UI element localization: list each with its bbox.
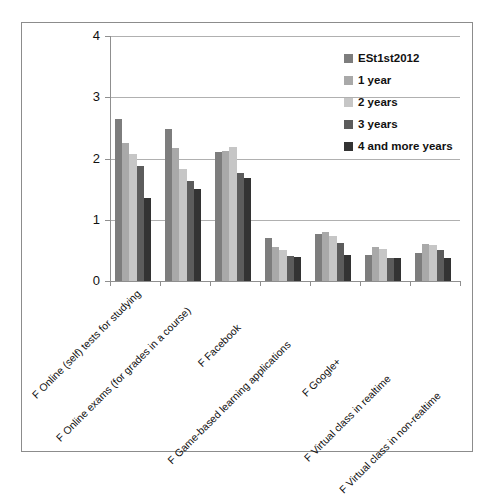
x-axis-label: F Online (self) tests for studying [0,288,143,498]
bar-group [265,36,301,281]
bar [315,234,322,281]
bar [179,169,186,281]
legend-color-swatch [344,142,353,151]
y-tick-label: 4 [74,29,100,42]
bar [237,173,244,281]
bar [137,166,144,281]
bar [172,148,179,281]
x-tick-mark [160,281,161,286]
bar [129,154,136,281]
bar [122,143,129,281]
bar [344,255,351,281]
legend-color-swatch [344,98,353,107]
bar [165,129,172,281]
bar-group [215,36,251,281]
bar [365,255,372,281]
x-axis-label: F Game-based learning applications [73,339,293,498]
bar [279,250,286,281]
bar [294,257,301,282]
legend-label: 1 year [358,74,391,86]
chart-legend: ESt1st20121 year2 years3 years4 and more… [344,47,484,157]
x-axis-label: F Facebook [23,322,243,498]
x-tick-mark [210,281,211,286]
bar [115,119,122,281]
bar [437,250,444,281]
bar [215,152,222,281]
bar [244,178,251,281]
bar [322,232,329,281]
x-tick-mark [360,281,361,286]
x-tick-mark [260,281,261,286]
legend-label: 2 years [358,96,398,108]
bar [229,147,236,281]
x-axis-line [110,281,460,282]
legend-color-swatch [344,120,353,129]
legend-item: 3 years [344,113,484,135]
bar [187,181,194,281]
bar [194,189,201,281]
bar [329,236,336,281]
y-tick-label: 3 [74,90,100,103]
bar [372,247,379,281]
x-tick-mark [460,281,461,286]
legend-color-swatch [344,76,353,85]
bar [265,238,272,281]
bar-group [115,36,151,281]
legend-item: 2 years [344,91,484,113]
legend-label: 3 years [358,118,398,130]
bar [337,243,344,281]
bar [222,151,229,281]
bar [444,258,451,281]
legend-item: 4 and more years [344,135,484,157]
legend-label: 4 and more years [358,140,453,152]
bar [144,198,151,281]
bar [272,247,279,281]
legend-item: 1 year [344,69,484,91]
bar [429,245,436,281]
bar [379,249,386,281]
bar [415,253,422,281]
legend-color-swatch [344,54,353,63]
y-tick-label: 2 [74,152,100,165]
bar [387,258,394,281]
bar [422,244,429,281]
legend-label: ESt1st2012 [358,52,419,64]
bar [394,258,401,281]
y-tick-label: 0 [74,274,100,287]
bar [287,256,294,281]
legend-item: ESt1st2012 [344,47,484,69]
x-tick-mark [310,281,311,286]
x-tick-mark [110,281,111,286]
y-tick-label: 1 [74,213,100,226]
bar-group [165,36,201,281]
x-tick-mark [410,281,411,286]
